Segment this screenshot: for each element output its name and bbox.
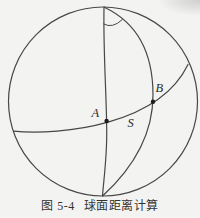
- caption-number: 图 5-4: [41, 199, 75, 214]
- caption-title: 球面距离计算: [84, 199, 159, 214]
- point-a-label: A: [91, 106, 100, 120]
- arc-s-label: S: [128, 116, 135, 130]
- point-b-label: B: [156, 81, 164, 95]
- figure-page: A B S 图 5-4 球面距离计算: [0, 0, 200, 218]
- right-meridian-arc: [103, 7, 153, 196]
- great-circle-ab-arc: [14, 65, 189, 133]
- left-meridian-arc: [103, 7, 107, 196]
- point-b-dot: [151, 100, 155, 104]
- pole-angle-arc: [104, 20, 123, 26]
- sphere-outline: [9, 7, 198, 196]
- point-a-dot: [104, 119, 108, 123]
- sphere-diagram: A B S: [0, 0, 200, 218]
- figure-caption: 图 5-4 球面距离计算: [0, 199, 200, 214]
